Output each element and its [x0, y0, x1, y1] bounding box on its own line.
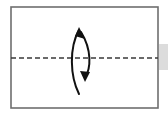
- fold-rotation-diagram: [0, 0, 168, 119]
- screenshot-root: [0, 0, 168, 119]
- right-edge-highlight: [159, 44, 168, 70]
